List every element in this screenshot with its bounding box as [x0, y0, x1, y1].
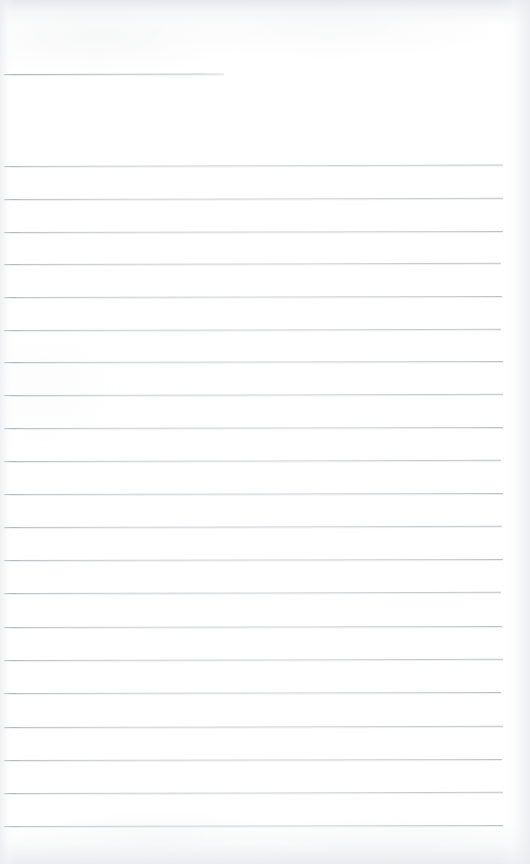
ruled-line	[4, 792, 503, 794]
ruled-line	[4, 559, 503, 561]
ruled-line	[4, 394, 503, 396]
ruled-line	[4, 296, 502, 298]
ruled-line	[4, 592, 501, 594]
ruled-line	[4, 493, 503, 495]
ruled-line	[4, 231, 503, 233]
ruled-line	[4, 460, 501, 462]
header-underline-rule	[4, 74, 224, 75]
ruled-line	[4, 726, 503, 728]
ruled-line	[4, 329, 501, 331]
ruled-line	[4, 263, 501, 265]
paper-background	[0, 0, 530, 864]
ruled-line	[4, 659, 503, 661]
scanned-page	[0, 0, 530, 864]
ruled-line	[4, 165, 503, 167]
ruled-line	[4, 626, 502, 628]
ruled-line	[4, 759, 502, 761]
ruled-line	[4, 427, 503, 429]
ruled-line	[4, 526, 502, 528]
ruled-line	[4, 198, 503, 200]
ruled-line	[4, 361, 503, 363]
ruled-line	[4, 825, 503, 827]
ruled-line	[4, 692, 501, 694]
